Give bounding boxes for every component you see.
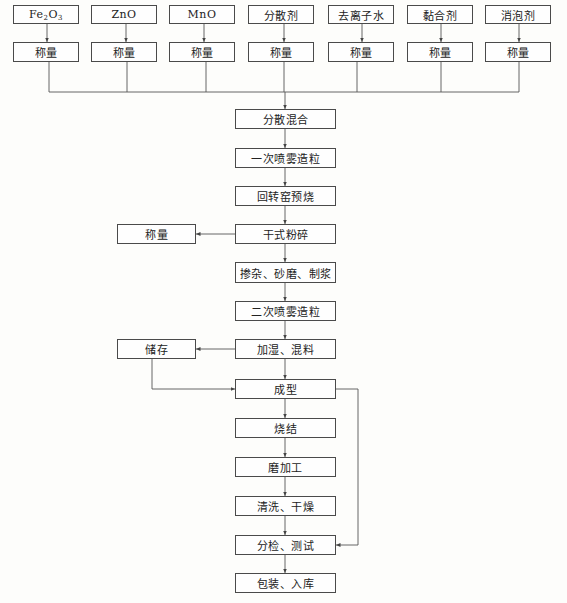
raw-material-fe2o3: Fe2O3 (13, 5, 79, 24)
step-first-spray-granulation: 一次喷雾造粒 (235, 148, 336, 168)
step-grinding: 磨加工 (235, 457, 336, 477)
side-storage-box: 储存 (117, 339, 196, 359)
fe2o3-label: Fe2O3 (29, 8, 63, 22)
weigh-box: 称量 (169, 42, 235, 62)
raw-material-zno: ZnO (91, 5, 157, 24)
step-dry-crushing: 干式粉碎 (235, 224, 336, 244)
weigh-box: 称量 (407, 42, 473, 62)
side-weigh-box: 称量 (117, 224, 196, 244)
weigh-box: 称量 (13, 42, 79, 62)
weigh-box: 称量 (328, 42, 394, 62)
step-second-spray-granulation: 二次喷雾造粒 (235, 301, 336, 321)
step-sintering: 烧结 (235, 418, 336, 438)
step-doping-milling-slurry: 掺杂、砂磨、制浆 (235, 262, 336, 283)
raw-material-defoamer: 消泡剂 (485, 5, 551, 24)
step-forming: 成型 (235, 379, 336, 399)
weigh-box: 称量 (485, 42, 551, 62)
raw-material-dispersant: 分散剂 (248, 5, 314, 24)
step-packaging-storage: 包装、入库 (235, 573, 336, 593)
weigh-box: 称量 (248, 42, 314, 62)
raw-material-mno: MnO (169, 5, 235, 24)
weigh-box: 称量 (91, 42, 157, 62)
step-cleaning-drying: 清洗、干燥 (235, 496, 336, 516)
raw-material-binder: 黏合剂 (407, 5, 473, 24)
step-rotary-kiln-presintering: 回转窑预烧 (235, 186, 336, 206)
step-sorting-testing: 分检、测试 (235, 535, 336, 555)
step-humidify-mixing: 加湿、混料 (235, 339, 336, 359)
raw-material-deionized-water: 去离子水 (328, 5, 394, 24)
step-dispersion-mixing: 分散混合 (235, 109, 336, 129)
